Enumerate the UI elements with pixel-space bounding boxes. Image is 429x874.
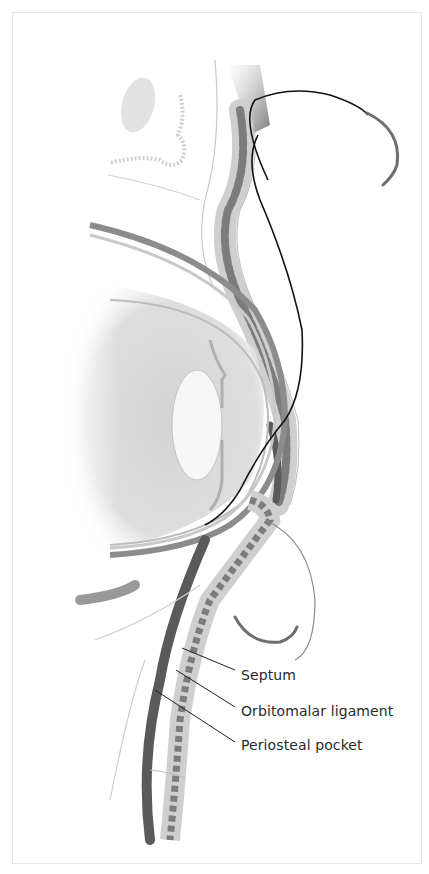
- needle-upper: [367, 113, 398, 185]
- lens: [172, 370, 222, 480]
- leader-periosteal-pocket: [155, 690, 235, 742]
- needle-lower: [235, 617, 297, 642]
- brow-fat: [108, 74, 200, 200]
- suture-loop-lower: [265, 520, 315, 660]
- orbital-rim-upper: [202, 60, 217, 290]
- label-periosteal-pocket: Periosteal pocket: [241, 737, 363, 753]
- eyelid-illustration: [0, 0, 429, 874]
- label-orbitomalar-ligament: Orbitomalar ligament: [241, 703, 393, 719]
- label-septum: Septum: [241, 667, 296, 683]
